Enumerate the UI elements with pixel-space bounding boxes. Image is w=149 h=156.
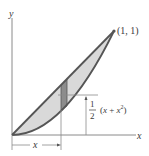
fraction-numerator: 1: [90, 99, 95, 109]
endpoint-dot: [112, 29, 115, 32]
arrowhead-right-icon: [57, 144, 61, 147]
centroid-expression: (x + x2): [100, 104, 127, 115]
area-between-curves-diagram: y x (1, 1) x 1 2 (x + x2): [0, 0, 149, 156]
y-axis-label: y: [8, 8, 14, 19]
upper-curve-line: [12, 31, 114, 135]
endpoint-label: (1, 1): [117, 25, 139, 37]
arrowhead-up-icon: [85, 96, 88, 100]
x-axis-label: x: [136, 130, 142, 141]
fraction-denominator: 2: [90, 111, 95, 121]
x-dimension-label: x: [32, 139, 38, 150]
